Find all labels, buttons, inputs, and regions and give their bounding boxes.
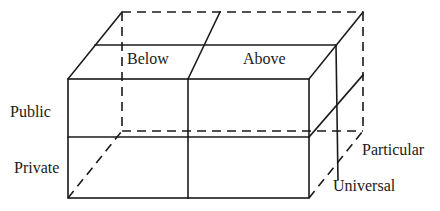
label-below: Below xyxy=(127,51,169,67)
label-universal: Universal xyxy=(333,178,395,194)
top-face xyxy=(68,12,363,79)
right-face xyxy=(309,45,363,180)
label-above: Above xyxy=(243,51,286,67)
hidden-edges xyxy=(68,12,363,198)
front-face xyxy=(68,79,309,198)
label-private: Private xyxy=(14,160,59,176)
label-public: Public xyxy=(10,104,51,120)
label-particular: Particular xyxy=(362,142,424,158)
